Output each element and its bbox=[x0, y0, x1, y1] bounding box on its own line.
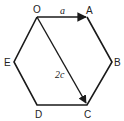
hexagon-diagram: O A B C D E a 2c bbox=[0, 0, 124, 121]
vertex-label-e: E bbox=[4, 57, 11, 68]
vertex-label-b: B bbox=[114, 57, 121, 68]
vertex-label-o: O bbox=[33, 4, 41, 15]
vector-oc bbox=[37, 17, 86, 103]
vector-label-a: a bbox=[60, 5, 65, 16]
vertex-label-a: A bbox=[86, 5, 93, 16]
vertex-label-d: D bbox=[35, 109, 42, 120]
vertex-label-c: C bbox=[84, 109, 91, 120]
hexagon-outline bbox=[14, 17, 112, 105]
vector-label-2c: 2c bbox=[55, 69, 65, 80]
